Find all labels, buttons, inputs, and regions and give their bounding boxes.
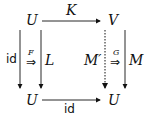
node-top-left: U — [26, 13, 38, 27]
node-bottom-left: U — [26, 93, 38, 107]
double-arrow-f-icon: ⇒ — [26, 56, 36, 68]
double-arrow-g-icon: ⇒ — [110, 56, 120, 68]
label-bottom-id: id — [64, 103, 75, 115]
label-left-id: id — [6, 53, 17, 65]
label-k: K — [66, 3, 76, 17]
node-bottom-right: U — [108, 93, 120, 107]
label-m: M — [129, 53, 143, 67]
node-top-right: V — [108, 13, 118, 27]
label-m-prime: M′ — [84, 53, 102, 67]
label-l: L — [45, 53, 54, 67]
